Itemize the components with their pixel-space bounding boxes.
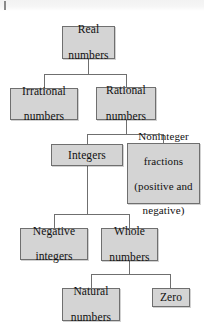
node-rational-numbers[interactable]: Rationalnumbers bbox=[96, 87, 156, 120]
connector-to-integers bbox=[87, 134, 88, 144]
node-whole-numbers-line2: numbers bbox=[107, 251, 151, 264]
node-noninteger-fractions-line2: fractions bbox=[132, 155, 194, 167]
node-natural-numbers-line1: Natural bbox=[69, 285, 113, 298]
node-real-numbers-line2: numbers bbox=[66, 49, 110, 62]
node-noninteger-fractions-line3: (positive and bbox=[132, 180, 194, 192]
node-real-numbers[interactable]: Realnumbers bbox=[62, 26, 115, 59]
node-natural-numbers-label: Naturalnumbers bbox=[67, 285, 115, 324]
connector-integers-bar bbox=[54, 214, 130, 215]
node-rational-numbers-line2: numbers bbox=[104, 110, 148, 123]
node-rational-numbers-line1: Rational bbox=[104, 84, 148, 97]
node-noninteger-fractions[interactable]: Nonintegerfractions(positive andnegative… bbox=[127, 143, 200, 204]
node-natural-numbers-line2: numbers bbox=[69, 311, 113, 324]
node-irrational-numbers-line1: Irrational bbox=[20, 85, 68, 98]
node-noninteger-fractions-line4: negative) bbox=[132, 204, 194, 216]
node-zero[interactable]: Zero bbox=[152, 288, 190, 307]
connector-integers-stem bbox=[87, 166, 88, 214]
real-numbers-classification-diagram: Realnumbers Irrationalnumbers Rationalnu… bbox=[0, 0, 204, 331]
node-irrational-numbers[interactable]: Irrationalnumbers bbox=[10, 88, 78, 120]
node-whole-numbers-label: Wholenumbers bbox=[105, 225, 153, 264]
connector-whole-bar bbox=[91, 274, 171, 275]
connector-to-zero bbox=[170, 274, 171, 288]
node-negative-integers-line2: integers bbox=[31, 250, 77, 263]
node-integers[interactable]: Integers bbox=[51, 144, 123, 166]
node-irrational-numbers-line2: numbers bbox=[20, 110, 68, 123]
scan-artifact-strip bbox=[0, 0, 204, 11]
connector-real-bar bbox=[44, 74, 127, 75]
node-whole-numbers-line1: Whole bbox=[107, 225, 151, 238]
node-whole-numbers[interactable]: Wholenumbers bbox=[101, 228, 158, 261]
scan-artifact-tick bbox=[4, 1, 6, 10]
node-negative-integers-line1: Negative bbox=[31, 225, 77, 238]
node-irrational-numbers-label: Irrationalnumbers bbox=[18, 85, 70, 124]
node-zero-label: Zero bbox=[158, 291, 184, 304]
node-rational-numbers-label: Rationalnumbers bbox=[102, 84, 150, 123]
node-real-numbers-line1: Real bbox=[66, 23, 110, 36]
node-integers-label: Integers bbox=[66, 149, 108, 162]
node-negative-integers-label: Negativeintegers bbox=[29, 225, 79, 264]
node-noninteger-fractions-label: Nonintegerfractions(positive andnegative… bbox=[130, 130, 196, 216]
node-natural-numbers[interactable]: Naturalnumbers bbox=[62, 288, 120, 321]
node-negative-integers[interactable]: Negativeintegers bbox=[20, 228, 88, 260]
node-real-numbers-label: Realnumbers bbox=[64, 23, 112, 62]
node-noninteger-fractions-line1: Noninteger bbox=[132, 130, 194, 142]
